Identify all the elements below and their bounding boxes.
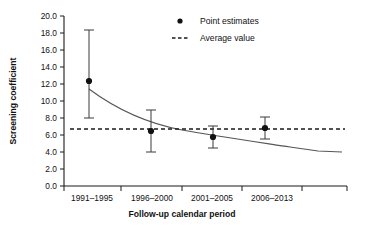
y-tick-label-18: 18.0 [41,28,58,38]
point-marker-2 [148,128,154,134]
x-axis-title: Follow-up calendar period [129,209,236,219]
y-tick-label-8: 8.0 [45,113,57,123]
legend-marker-point-estimates [177,18,182,23]
x-axis-ticks [64,186,347,191]
data-point-group-1996-2000 [146,110,156,152]
y-axis-ticks [60,16,64,186]
x-tick-label-2001-2005: 2001–2005 [191,193,233,203]
y-axis-title: Screening coefficient [8,57,18,144]
y-tick-label-12: 12.0 [41,79,58,89]
y-tick-label-10: 10.0 [41,96,58,106]
y-tick-label-14: 14.0 [41,62,58,72]
y-tick-label-6: 6.0 [45,130,57,140]
data-point-group-2006-2013 [260,117,270,139]
x-tick-label-1996-2000: 1996–2000 [131,193,173,203]
point-marker-1 [86,78,92,84]
chart-canvas: 20.0 18.0 16.0 14.0 12.0 10.0 8.0 6.0 4.… [0,0,385,229]
chart-legend: Point estimates Average value [172,16,259,43]
legend-label-point-estimates: Point estimates [200,16,259,26]
y-tick-label-20: 20.0 [41,11,58,21]
y-tick-label-4: 4.0 [45,147,57,157]
point-marker-4 [262,125,268,131]
data-point-group-1991-1995 [84,30,94,118]
x-tick-label-2006-2013: 2006–2013 [251,193,293,203]
legend-label-average-value: Average value [200,33,255,43]
data-point-group-2001-2005 [208,126,218,148]
y-tick-label-2: 2.0 [45,164,57,174]
trend-curve [89,89,342,152]
point-marker-3 [210,134,216,140]
x-axis-tick-labels: 1991–1995 1996–2000 2001–2005 2006–2013 [71,193,293,203]
y-axis-tick-labels: 20.0 18.0 16.0 14.0 12.0 10.0 8.0 6.0 4.… [41,11,58,191]
y-tick-label-0: 0.0 [45,181,57,191]
chart-figure: 20.0 18.0 16.0 14.0 12.0 10.0 8.0 6.0 4.… [0,0,385,229]
y-tick-label-16: 16.0 [41,45,58,55]
x-tick-label-1991-1995: 1991–1995 [71,193,113,203]
